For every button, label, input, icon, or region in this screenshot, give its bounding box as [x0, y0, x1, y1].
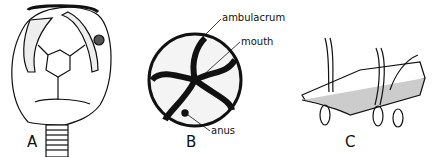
figure: A B C ambulacrum mouth anus: [0, 0, 442, 157]
panel-label-c: C: [345, 133, 355, 151]
panel-label-b: B: [186, 133, 196, 151]
panel-b-drawing: [149, 19, 241, 131]
panel-label-a: A: [27, 133, 37, 151]
panel-c-drawing: [302, 38, 425, 127]
annotation-mouth: mouth: [241, 36, 273, 47]
annotation-ambulacrum: ambulacrum: [222, 12, 285, 23]
annotation-anus: anus: [211, 125, 235, 136]
